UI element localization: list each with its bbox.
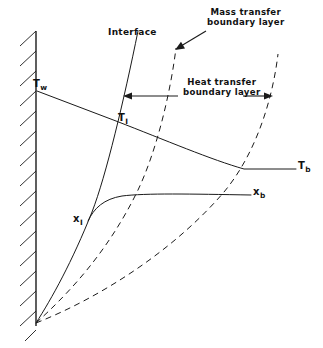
heat-transfer-dimension-left [123,93,178,100]
boundary-layer-diagram: Interface Mass transfer boundary layer H… [0,0,323,348]
mass-transfer-label-line2: boundary layer [207,17,284,27]
t-bulk-sub: b [305,165,311,174]
x-interface-label: xI [73,213,83,224]
t-bulk-label: Tb [298,160,311,171]
t-interface-label: TI [118,112,128,123]
mass-transfer-boundary-curve [36,48,176,323]
x-interface-sub: I [80,218,83,227]
heat-transfer-label-line1: Heat transfer [187,77,256,87]
mass-transfer-leader-arrow [175,31,206,50]
mass-transfer-label: Mass transfer boundary layer [207,8,284,27]
interface-label: Interface [108,27,157,37]
heat-transfer-label-line2: boundary layer [183,87,260,97]
t-wall-label: Tw [33,78,47,89]
t-interface-sub: I [125,117,128,126]
x-bulk-base: x [253,186,260,197]
x-interface-base: x [73,213,80,224]
mass-transfer-label-line1: Mass transfer [210,7,281,17]
diagram-canvas [0,0,323,348]
x-bulk-sub: b [260,191,266,200]
concentration-profile-curve [88,194,251,221]
heat-transfer-label: Heat transfer boundary layer [183,78,260,97]
x-bulk-label: xb [253,186,265,197]
t-wall-sub: w [40,83,47,92]
interface-curve [36,31,138,323]
temperature-profile-curve [37,91,296,169]
